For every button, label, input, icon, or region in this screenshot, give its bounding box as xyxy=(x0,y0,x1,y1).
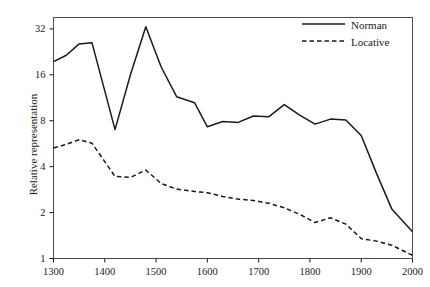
y-tick-label: 8 xyxy=(14,116,46,127)
y-tick-label: 1 xyxy=(14,254,46,265)
legend-swatches xyxy=(302,24,345,41)
data-series xyxy=(54,27,413,255)
x-tick-label: 1600 xyxy=(187,267,227,278)
x-tick-label: 1400 xyxy=(85,267,125,278)
axis-ticks xyxy=(50,29,413,263)
x-tick-label: 1300 xyxy=(34,267,74,278)
legend-label-locative: Locative xyxy=(351,37,389,48)
axis-frame xyxy=(54,18,413,259)
y-tick-label: 32 xyxy=(14,24,46,35)
legend-label-norman: Norman xyxy=(351,20,387,31)
x-tick-label: 1500 xyxy=(136,267,176,278)
x-tick-label: 2000 xyxy=(393,267,430,278)
series-line-norman xyxy=(54,27,413,232)
y-tick-label: 16 xyxy=(14,70,46,81)
x-tick-label: 1800 xyxy=(290,267,330,278)
chart-figure: Relative representation 1248163213001400… xyxy=(0,0,430,287)
x-tick-label: 1700 xyxy=(239,267,279,278)
x-tick-label: 1900 xyxy=(341,267,381,278)
series-line-locative xyxy=(54,140,413,255)
y-tick-label: 4 xyxy=(14,162,46,173)
y-tick-label: 2 xyxy=(14,208,46,219)
y-axis-label: Relative representation xyxy=(28,60,39,230)
